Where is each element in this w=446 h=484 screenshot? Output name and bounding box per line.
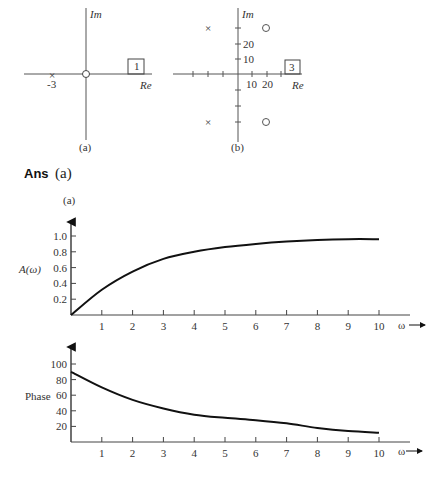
x-tick-label: 2	[130, 447, 136, 459]
x-tick-label: 9	[345, 447, 351, 459]
x-tick-label: 4	[191, 447, 197, 459]
x-tick-label: 9	[345, 320, 351, 332]
x-tick-label: 3	[161, 447, 167, 459]
re-label: Re	[291, 79, 304, 91]
x-tick-label: 10	[374, 320, 386, 332]
phase-curve	[71, 372, 379, 433]
y-tick-labels: 20406080100	[51, 358, 68, 432]
x-arrowhead-icon	[417, 448, 423, 454]
chart-amplitude: (a) 0.20.40.60.81.0 12345678910 A(ω) ω	[18, 194, 426, 332]
caption-b: (b)	[231, 141, 244, 154]
re-label: Re	[139, 79, 152, 91]
zero-marker-icon	[263, 25, 270, 32]
y-tick-label: 20	[56, 420, 68, 432]
y-tick-label: 0.8	[53, 246, 67, 258]
re-tick-10: 10	[246, 78, 258, 90]
x-tick-label: 8	[315, 320, 321, 332]
x-tick-label: 8	[315, 447, 321, 459]
x-tick-label: 1	[99, 320, 105, 332]
zero-marker-icon	[83, 71, 90, 78]
x-tick-labels: 12345678910	[99, 320, 385, 332]
figure-canvas: Im Re × -3 1 (a) Im Re 2	[0, 0, 446, 484]
pole-label: -3	[47, 78, 57, 90]
chart-title: (a)	[63, 194, 76, 207]
x-axis-label: ω	[398, 319, 405, 331]
x-tick-labels: 12345678910	[99, 447, 385, 459]
x-tick-label: 3	[161, 320, 167, 332]
x-ticks	[102, 310, 379, 315]
x-arrowhead-icon	[420, 322, 426, 328]
gain-label: 1	[134, 60, 140, 72]
im-tick-20: 20	[243, 38, 255, 50]
caption-a: (a)	[79, 141, 92, 154]
im-tick-10: 10	[243, 53, 255, 65]
re-tick-20: 20	[262, 78, 274, 90]
x-tick-label: 7	[284, 447, 290, 459]
x-tick-label: 4	[191, 320, 197, 332]
y-tick-label: 0.2	[53, 293, 67, 305]
y-axis-label: Phase	[25, 390, 51, 402]
y-ticks	[71, 236, 76, 299]
y-tick-label: 1.0	[53, 230, 67, 242]
im-label: Im	[241, 8, 254, 20]
y-axis-label: A(ω)	[18, 263, 41, 276]
answer-prefix: Ans	[24, 166, 49, 181]
x-tick-label: 5	[222, 447, 228, 459]
y-tick-label: 60	[56, 389, 68, 401]
answer-part: (a)	[55, 165, 72, 182]
chart-phase: 20406080100 12345678910 Phase ω	[25, 347, 423, 459]
pole-zero-plot-b: Im Re 20 10 10 20 × × 3 (b)	[173, 8, 304, 154]
im-label: Im	[89, 8, 102, 20]
y-tick-label: 0.6	[53, 262, 67, 274]
x-tick-label: 7	[284, 320, 290, 332]
y-tick-label: 40	[56, 405, 68, 417]
y-tick-label: 80	[56, 374, 68, 386]
x-tick-label: 5	[222, 320, 228, 332]
x-ticks	[102, 437, 379, 442]
y-tick-label: 0.4	[53, 277, 67, 289]
gain-label: 3	[289, 61, 295, 73]
zero-marker-icon	[263, 119, 270, 126]
x-axis-label: ω	[398, 445, 405, 457]
pole-marker-icon: ×	[205, 116, 211, 128]
y-tick-labels: 0.20.40.60.81.0	[53, 230, 67, 305]
pole-zero-plot-a: Im Re × -3 1 (a)	[24, 8, 152, 154]
x-tick-label: 10	[374, 447, 386, 459]
x-tick-label: 6	[253, 447, 259, 459]
x-tick-label: 6	[253, 320, 259, 332]
pole-marker-icon: ×	[205, 22, 211, 34]
x-tick-label: 1	[99, 447, 105, 459]
x-tick-label: 2	[130, 320, 136, 332]
amplitude-curve	[71, 239, 379, 315]
y-tick-label: 100	[51, 358, 68, 370]
